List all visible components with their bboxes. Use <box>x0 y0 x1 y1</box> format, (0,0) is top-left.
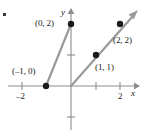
point-label-0-2: (0, 2) <box>35 19 54 28</box>
x-axis-label: x <box>131 89 135 98</box>
y-axis-label: y <box>61 8 65 17</box>
graph-figure: (0, 2) (–1, 0) (1, 1) (2, 2) y x –2 2 <box>0 0 143 133</box>
point-label-1-1: (1, 1) <box>95 63 114 72</box>
data-points <box>43 21 123 89</box>
point-label-2-2: (2, 2) <box>113 36 132 45</box>
x-tick-label-neg2: –2 <box>16 92 25 101</box>
line-ray-identity <box>71 10 138 86</box>
point-neg1-0 <box>43 83 49 89</box>
y-axis-arrow-icon <box>68 8 75 14</box>
point-0-2 <box>68 21 74 27</box>
point-2-2 <box>117 21 123 27</box>
x-tick-label-2: 2 <box>118 92 123 101</box>
point-label-neg1-0: (–1, 0) <box>12 67 35 76</box>
point-1-1 <box>93 52 99 58</box>
